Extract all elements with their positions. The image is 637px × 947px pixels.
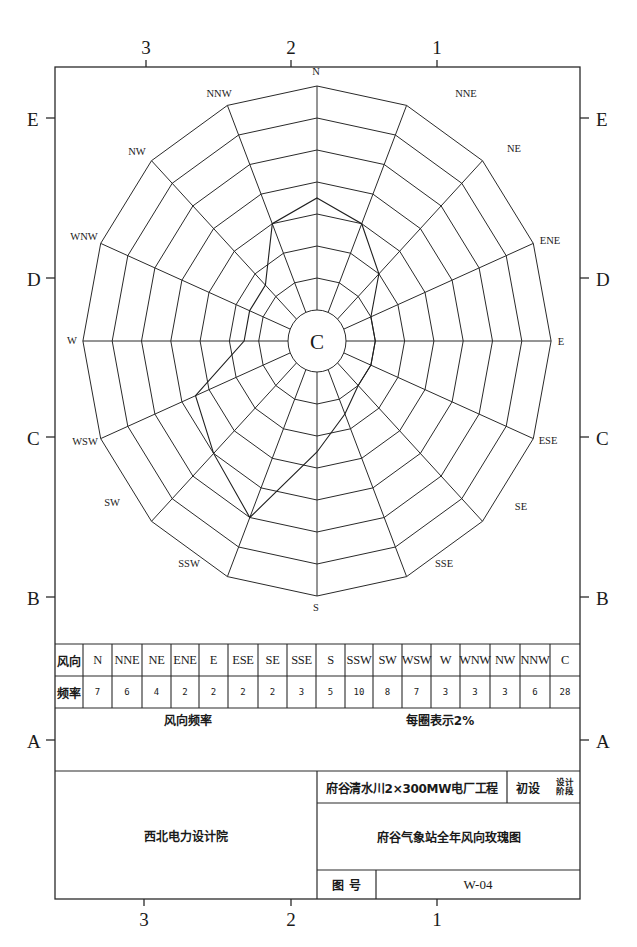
grid-spoke — [227, 105, 306, 312]
stage-label-line2: 阶段 — [556, 787, 574, 796]
table-header-sse: SSE — [287, 644, 316, 676]
direction-label-sse: SSE — [435, 558, 453, 569]
direction-label-ne: NE — [507, 143, 521, 154]
table-value-ssw: 10 — [345, 676, 373, 708]
grid-spoke — [344, 243, 534, 329]
table-header-nw: NW — [490, 644, 520, 676]
row-marker-b-left: B — [27, 589, 40, 608]
column-marker-2-bottom: 2 — [286, 910, 296, 929]
grid-spoke — [152, 363, 297, 521]
direction-label-n: N — [312, 66, 320, 77]
table-value-se: 2 — [258, 676, 287, 708]
direction-label-nnw: NNW — [206, 88, 231, 99]
direction-label-ene: ENE — [540, 235, 560, 246]
table-header-n: N — [83, 644, 112, 676]
row-marker-c-left: C — [27, 429, 40, 448]
title-block-stage-value: 初设 — [507, 771, 549, 803]
table-header-nnw: NNW — [520, 644, 550, 676]
rose-outline — [196, 198, 379, 518]
table-value-sw: 8 — [373, 676, 402, 708]
table-value-ne: 4 — [142, 676, 171, 708]
row-marker-d-left: D — [27, 270, 41, 289]
row-marker-b-right: B — [596, 589, 609, 608]
legend-ring-scale: 每圈表示2% — [406, 711, 474, 728]
direction-label-e: E — [558, 336, 564, 347]
table-header-ssw: SSW — [345, 644, 373, 676]
table-header-w: W — [431, 644, 460, 676]
row-marker-c-right: C — [596, 429, 609, 448]
table-header-ene: ENE — [171, 644, 199, 676]
grid-spoke — [338, 363, 483, 521]
table-value-ese: 2 — [228, 676, 258, 708]
table-value-nnw: 6 — [520, 676, 550, 708]
column-marker-1-top: 1 — [432, 38, 442, 57]
grid-spoke — [328, 105, 407, 312]
direction-label-s: S — [313, 602, 319, 613]
direction-label-wnw: WNW — [70, 231, 97, 242]
row-marker-a-left: A — [27, 732, 41, 751]
row-marker-a-right: A — [596, 732, 610, 751]
grid-spoke — [227, 370, 306, 577]
table-header-sw: SW — [373, 644, 402, 676]
column-marker-3-bottom: 3 — [139, 910, 149, 929]
grid-spoke — [328, 370, 407, 577]
title-block-project: 府谷清水川2×300MW电厂工程 — [317, 771, 507, 803]
table-header-e: E — [199, 644, 228, 676]
table-header-ne: NE — [142, 644, 171, 676]
row-header-frequency: 频率 — [55, 676, 83, 708]
title-block-organization: 西北电力设计院 — [55, 771, 317, 899]
table-header-c: C — [550, 644, 580, 676]
column-marker-2-top: 2 — [286, 38, 296, 57]
table-header-se: SE — [258, 644, 287, 676]
column-marker-3-top: 3 — [141, 38, 151, 57]
direction-label-ese: ESE — [539, 435, 558, 446]
table-header-nne: NNE — [112, 644, 142, 676]
table-value-ene: 2 — [171, 676, 199, 708]
row-header-direction: 风向 — [55, 644, 83, 676]
title-block-drawing-no-label: 图 号 — [317, 870, 376, 899]
calm-center-label: C — [310, 332, 324, 353]
direction-label-se: SE — [515, 501, 527, 512]
table-value-w: 3 — [431, 676, 460, 708]
direction-label-ssw: SSW — [178, 558, 200, 569]
row-marker-d-right: D — [596, 270, 610, 289]
table-value-n: 7 — [83, 676, 112, 708]
title-block-drawing-no: W-04 — [376, 870, 580, 899]
direction-label-nw: NW — [128, 146, 146, 157]
wind-rose-polygon — [196, 198, 379, 518]
table-header-s: S — [316, 644, 345, 676]
column-marker-1-bottom: 1 — [432, 910, 442, 929]
direction-label-wsw: WSW — [72, 436, 98, 447]
title-block-drawing-title: 府谷气象站全年风向玫瑰图 — [317, 803, 580, 870]
table-value-c: 28 — [550, 676, 580, 708]
table-header-wnw: WNW — [460, 644, 490, 676]
table-value-wsw: 7 — [402, 676, 431, 708]
grid-spoke — [101, 243, 291, 329]
title-block-stage-label: 设计 阶段 — [549, 771, 580, 803]
table-value-s: 5 — [316, 676, 345, 708]
direction-label-w: W — [67, 335, 77, 346]
row-marker-e-right: E — [596, 110, 608, 129]
direction-label-nne: NNE — [455, 88, 477, 99]
table-value-nne: 6 — [112, 676, 142, 708]
grid-spoke — [338, 161, 483, 319]
table-header-wsw: WSW — [402, 644, 431, 676]
row-marker-e-left: E — [27, 110, 39, 129]
table-value-nw: 3 — [490, 676, 520, 708]
table-value-sse: 3 — [287, 676, 316, 708]
table-value-e: 2 — [199, 676, 228, 708]
table-header-ese: ESE — [228, 644, 258, 676]
grid-spoke — [152, 161, 297, 319]
legend-wind-frequency: 风向频率 — [164, 711, 212, 728]
direction-label-sw: SW — [104, 497, 120, 508]
table-value-wnw: 3 — [460, 676, 490, 708]
grid-spoke — [344, 353, 534, 439]
